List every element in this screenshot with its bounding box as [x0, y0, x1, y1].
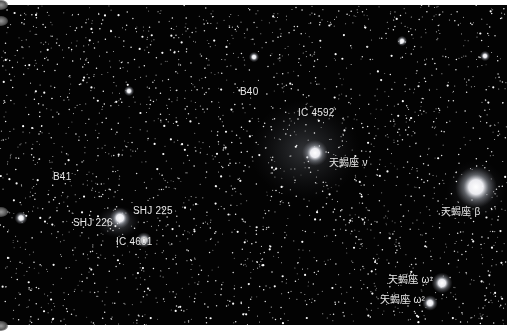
label-ic4601: IC 4601	[116, 236, 152, 247]
label-ic4592: IC 4592	[298, 107, 334, 118]
label-sco-beta: 天蝎座 β	[441, 206, 481, 217]
label-sco-omega2: 天蝎座 ω²	[380, 294, 425, 305]
label-shj226: SHJ 226	[73, 217, 113, 228]
astrophoto-frame: B40IC 4592天蝎座 νB41SHJ 225SHJ 226IC 4601天…	[0, 5, 507, 325]
label-b41: B41	[53, 171, 71, 182]
edge-artifact	[0, 321, 8, 331]
label-shj225: SHJ 225	[133, 205, 173, 216]
label-sco-nu: 天蝎座 ν	[329, 157, 368, 168]
label-b40: B40	[240, 86, 258, 97]
label-sco-omega1: 天蝎座 ω¹	[388, 274, 433, 285]
